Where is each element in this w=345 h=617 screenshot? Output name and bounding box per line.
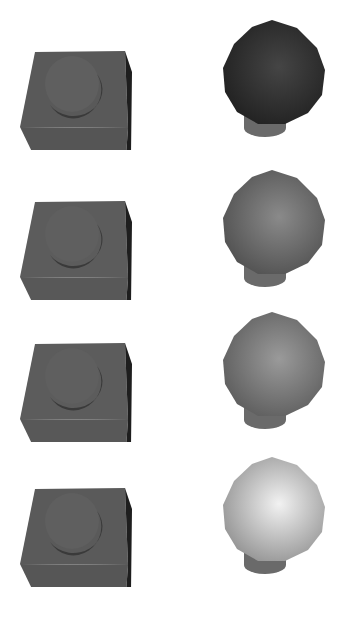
object-row — [0, 0, 345, 150]
sphere-on-base — [223, 312, 325, 429]
sphere-on-base — [223, 170, 325, 287]
sphere-on-base — [223, 20, 325, 137]
block-with-hole — [20, 51, 132, 150]
object-row — [0, 150, 345, 300]
row-render — [0, 150, 345, 300]
block-with-hole — [20, 201, 132, 300]
row-render — [0, 0, 345, 150]
row-render — [0, 437, 345, 587]
object-row — [0, 437, 345, 587]
object-row — [0, 292, 345, 442]
row-render — [0, 292, 345, 442]
block-with-hole — [20, 343, 132, 442]
sphere-on-base — [223, 457, 325, 574]
block-with-hole — [20, 488, 132, 587]
